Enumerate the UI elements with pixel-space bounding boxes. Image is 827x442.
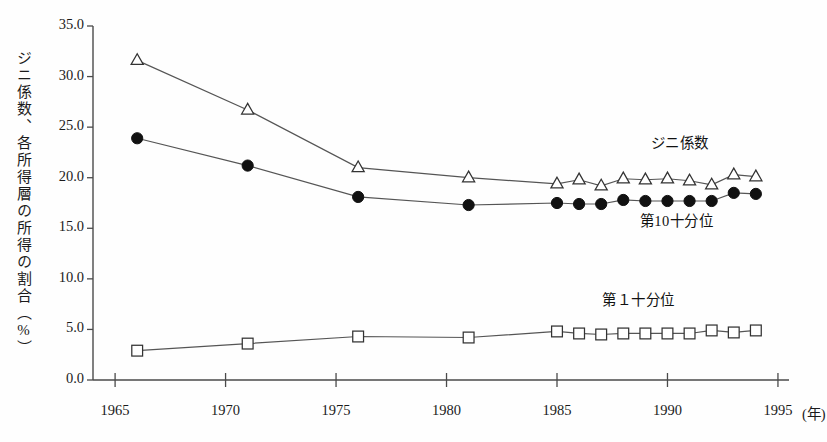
- data-point-marker: [596, 329, 607, 340]
- data-point-marker: [353, 331, 364, 342]
- data-point-marker: [639, 173, 651, 184]
- data-point-marker: [552, 326, 563, 337]
- data-point-marker: [662, 195, 673, 206]
- data-point-marker: [463, 199, 474, 210]
- chart-figure: ジニ係数、各所得層の所得の割合（%） 0.05.010.015.020.025.…: [0, 0, 827, 442]
- data-point-marker: [352, 161, 364, 172]
- x-axis-tick-label: 1965: [75, 402, 155, 419]
- data-point-marker: [132, 133, 143, 144]
- data-point-marker: [463, 332, 474, 343]
- data-point-marker: [706, 195, 717, 206]
- x-axis-unit-label: (年): [802, 402, 826, 423]
- data-point-marker: [684, 195, 695, 206]
- series-label: 第10十分位: [640, 209, 714, 230]
- data-point-marker: [618, 194, 629, 205]
- y-axis-tick-label: 35.0: [28, 16, 84, 33]
- data-point-marker: [728, 327, 739, 338]
- data-point-marker: [750, 325, 761, 336]
- data-point-marker: [573, 198, 584, 209]
- data-point-marker: [750, 188, 761, 199]
- data-point-marker: [750, 170, 762, 181]
- y-axis-tick-label: 10.0: [28, 269, 84, 286]
- data-point-marker: [662, 328, 673, 339]
- y-axis-tick-label: 25.0: [28, 117, 84, 134]
- series-label: ジニ係数: [651, 131, 709, 152]
- y-axis-tick-label: 30.0: [28, 67, 84, 84]
- data-point-marker: [353, 191, 364, 202]
- data-point-marker: [640, 195, 651, 206]
- y-axis-tick-label: 5.0: [28, 319, 84, 336]
- data-point-marker: [242, 338, 253, 349]
- data-point-marker: [618, 328, 629, 339]
- x-axis-tick-label: 1980: [407, 402, 487, 419]
- data-point-marker: [706, 325, 717, 336]
- data-point-marker: [684, 328, 695, 339]
- x-axis-tick-label: 1985: [517, 402, 597, 419]
- data-point-marker: [242, 160, 253, 171]
- y-axis-tick-label: 0.0: [28, 370, 84, 387]
- data-point-marker: [728, 187, 739, 198]
- data-point-marker: [573, 173, 585, 184]
- x-axis-tick-label: 1970: [186, 402, 266, 419]
- x-axis-tick-label: 1975: [296, 402, 376, 419]
- x-axis-tick-label: 1990: [627, 402, 707, 419]
- data-point-marker: [132, 345, 143, 356]
- data-point-marker: [683, 174, 695, 185]
- data-point-marker: [551, 197, 562, 208]
- data-point-marker: [131, 54, 143, 65]
- series-line: [137, 60, 756, 185]
- data-point-marker: [728, 168, 740, 179]
- y-axis-tick-label: 20.0: [28, 168, 84, 185]
- data-point-marker: [463, 171, 475, 182]
- y-axis-tick-label: 15.0: [28, 218, 84, 235]
- series-label: 第１十分位: [602, 288, 675, 309]
- data-point-marker: [617, 172, 629, 183]
- data-point-marker: [596, 198, 607, 209]
- data-point-marker: [574, 328, 585, 339]
- data-point-marker: [661, 172, 673, 183]
- data-point-marker: [640, 328, 651, 339]
